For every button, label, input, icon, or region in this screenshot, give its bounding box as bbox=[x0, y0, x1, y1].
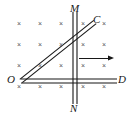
field-into-page-mark: × bbox=[102, 83, 106, 90]
field-into-page-mark: × bbox=[38, 83, 42, 90]
field-into-page-mark: × bbox=[102, 62, 106, 69]
field-into-page-mark: × bbox=[81, 20, 85, 27]
field-into-page-mark: × bbox=[17, 41, 21, 48]
field-into-page-mark: × bbox=[59, 20, 63, 27]
field-into-page-mark: × bbox=[81, 83, 85, 90]
rod-oc-stroke-2 bbox=[20, 20, 94, 79]
field-into-page-mark: × bbox=[81, 62, 85, 69]
field-into-page-mark: × bbox=[81, 41, 85, 48]
diagram-canvas bbox=[0, 0, 135, 120]
field-into-page-mark: × bbox=[102, 20, 106, 27]
field-into-page-mark: × bbox=[38, 62, 42, 69]
label-m: M bbox=[70, 3, 79, 14]
field-into-page-mark: × bbox=[59, 83, 63, 90]
field-into-page-mark: × bbox=[17, 62, 21, 69]
field-into-page-mark: × bbox=[59, 62, 63, 69]
label-o: O bbox=[7, 74, 15, 85]
field-into-page-mark: × bbox=[59, 41, 63, 48]
velocity-arrow bbox=[79, 55, 114, 60]
label-n: N bbox=[70, 103, 77, 114]
field-into-page-mark: × bbox=[102, 41, 106, 48]
physics-diagram-figure: ×××××××××××××××××××× MCODN bbox=[0, 0, 135, 120]
field-into-page-mark: × bbox=[17, 83, 21, 90]
rod-oc-stroke-1 bbox=[22, 24, 96, 83]
rail-MN bbox=[73, 12, 77, 104]
label-d: D bbox=[118, 74, 126, 85]
field-into-page-mark: × bbox=[17, 20, 21, 27]
rod-OC bbox=[20, 20, 96, 82]
field-into-page-mark: × bbox=[38, 20, 42, 27]
field-into-page-mark: × bbox=[38, 41, 42, 48]
label-c: C bbox=[93, 14, 100, 25]
velocity-arrow-head bbox=[108, 55, 114, 60]
